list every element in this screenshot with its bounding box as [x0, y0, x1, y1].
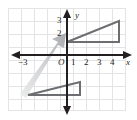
image-triangle	[67, 21, 119, 42]
y-tick-2: 2	[57, 29, 62, 38]
y-axis-arrow-up	[63, 9, 71, 18]
x-axis-label: x	[126, 58, 130, 67]
x-tick-4: 4	[110, 58, 115, 67]
x-tick-3: 3	[97, 58, 102, 67]
preimage-triangle	[28, 82, 80, 95]
x-tick-2: 2	[84, 58, 89, 67]
y-axis-label: y	[75, 11, 79, 20]
coordinate-plane-figure: y x O 3 2 1 2 3 4 −3	[0, 0, 137, 120]
y-tick-3: 3	[57, 16, 62, 25]
origin-label: O	[58, 58, 65, 67]
x-tick-neg3: −3	[18, 58, 28, 67]
x-tick-1: 1	[71, 58, 76, 67]
